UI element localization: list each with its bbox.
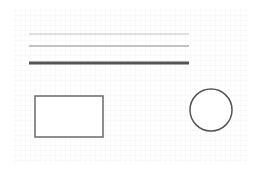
- background-grid: [12, 8, 248, 165]
- circle-shape: [190, 89, 232, 131]
- drawing-svg: [0, 0, 259, 175]
- drawing-canvas: [0, 0, 259, 175]
- rectangle-shape: [35, 96, 103, 137]
